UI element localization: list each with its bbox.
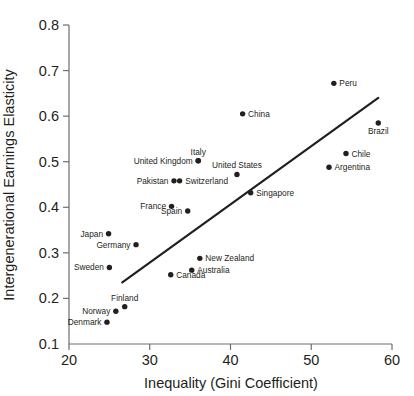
point-marker-spain	[185, 208, 190, 213]
y-tick-label-0.4: 0.4	[39, 199, 59, 215]
point-marker-australia	[189, 267, 194, 272]
point-label: Denmark	[68, 317, 103, 327]
x-tick-label-40: 40	[222, 352, 238, 368]
point-label: Singapore	[256, 188, 294, 198]
point-label: United States	[212, 160, 262, 170]
point-label: Norway	[82, 306, 111, 316]
data-point: Peru	[331, 78, 357, 88]
point-marker-norway	[113, 308, 118, 313]
point-label: Pakistan	[137, 176, 169, 186]
data-point: New Zealand	[197, 253, 254, 263]
point-label: Sweden	[74, 262, 104, 272]
point-label: Chile	[351, 149, 370, 159]
point-marker-peru	[331, 81, 336, 86]
data-point: China	[240, 109, 270, 119]
data-point: Pakistan	[137, 176, 177, 186]
y-tick-label-0.8: 0.8	[39, 17, 59, 33]
point-marker-germany	[133, 242, 138, 247]
point-marker-denmark	[104, 319, 109, 324]
data-point: Denmark	[68, 317, 110, 327]
point-label: China	[248, 109, 270, 119]
y-tick-label-0.2: 0.2	[39, 290, 59, 306]
point-label: New Zealand	[205, 253, 254, 263]
point-marker-china	[240, 111, 245, 116]
data-point: Argentina	[326, 162, 370, 172]
point-label: Switzerland	[185, 176, 228, 186]
scatter-chart: 0.10.20.30.40.50.60.70.82030405060 Denma…	[0, 0, 414, 396]
point-marker-brazil	[376, 120, 381, 125]
x-axis-title: Inequality (Gini Coefficient)	[144, 375, 318, 391]
data-point: Spain	[161, 206, 190, 216]
data-point: United States	[212, 160, 262, 177]
x-tick-label-20: 20	[61, 352, 77, 368]
point-marker-pakistan	[171, 178, 176, 183]
x-tick-label-50: 50	[303, 352, 319, 368]
y-axis-title: Intergenerational Earnings Elasticity	[1, 69, 17, 301]
point-marker-argentina	[326, 164, 331, 169]
point-marker-japan	[106, 231, 111, 236]
point-label: Spain	[161, 206, 183, 216]
y-tick-label-0.6: 0.6	[39, 108, 59, 124]
data-point: Norway	[82, 306, 118, 316]
point-marker-united-states	[234, 172, 239, 177]
x-tick-label-30: 30	[142, 352, 158, 368]
data-point: Finland	[111, 293, 139, 310]
point-label: Finland	[111, 293, 139, 303]
data-point: United Kingdom	[134, 156, 201, 166]
point-marker-switzerland	[177, 178, 182, 183]
data-point: Sweden	[74, 262, 112, 272]
y-tick-label-0.1: 0.1	[39, 336, 59, 352]
y-tick-label-0.7: 0.7	[39, 63, 59, 79]
point-marker-canada	[168, 272, 173, 277]
point-marker-singapore	[248, 190, 253, 195]
point-label: Italy	[191, 147, 207, 157]
data-point: Switzerland	[177, 176, 228, 186]
point-marker-finland	[122, 304, 127, 309]
data-point: Chile	[343, 149, 370, 159]
point-label: United Kingdom	[134, 156, 193, 166]
plot-area: 0.10.20.30.40.50.60.70.82030405060 Denma…	[0, 0, 414, 396]
x-tick-label-60: 60	[384, 352, 400, 368]
point-label: Germany	[96, 240, 131, 250]
data-point: Brazil	[368, 120, 389, 136]
point-marker-new-zealand	[197, 256, 202, 261]
y-tick-label-0.3: 0.3	[39, 245, 59, 261]
point-marker-sweden	[107, 265, 112, 270]
data-point: Germany	[96, 240, 138, 250]
data-point: Singapore	[248, 188, 294, 198]
y-tick-label-0.5: 0.5	[39, 154, 59, 170]
point-marker-italy	[196, 158, 201, 163]
point-label: Brazil	[368, 126, 389, 136]
data-point: Italy	[191, 147, 207, 164]
data-points: DenmarkNorwayFinlandSwedenJapanGermanyCa…	[68, 78, 389, 327]
point-label: Japan	[80, 229, 103, 239]
point-label: Peru	[339, 78, 357, 88]
data-point: Japan	[80, 229, 111, 239]
point-label: Australia	[197, 265, 230, 275]
point-marker-chile	[343, 151, 348, 156]
point-label: Argentina	[335, 162, 371, 172]
